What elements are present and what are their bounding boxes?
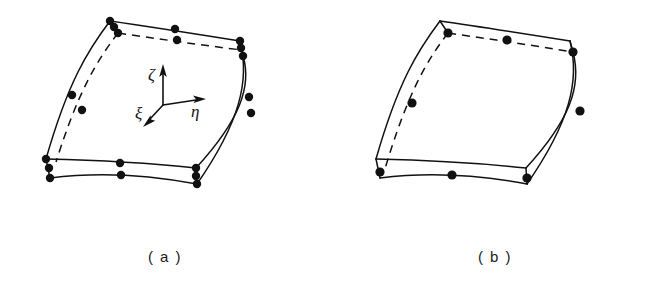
element-node-corner xyxy=(114,29,122,37)
hexahedron-element-a: ζ η ξ xyxy=(0,0,330,245)
element-node-corner xyxy=(239,52,247,60)
element-node-midside xyxy=(443,28,452,37)
node-group-a xyxy=(42,17,255,188)
element-node-midside xyxy=(447,170,456,179)
top-left-edge-b xyxy=(376,21,440,159)
element-node-midside xyxy=(173,36,181,44)
zeta-axis-label: ζ xyxy=(148,65,156,84)
element-node-midside xyxy=(237,44,245,52)
element-node-corner xyxy=(46,174,54,182)
element-node-corner xyxy=(192,164,200,172)
xi-axis-line xyxy=(150,105,163,119)
element-node-midside xyxy=(245,93,253,101)
element-node-midside xyxy=(116,159,124,167)
element-node-midside xyxy=(522,173,531,182)
element-node-midside xyxy=(78,106,86,114)
element-node-midside xyxy=(192,172,200,180)
xi-axis-label: ξ xyxy=(135,104,143,123)
figure-sheet: ζ η ξ ( a ) ( b ) xyxy=(0,0,660,295)
element-node-midside xyxy=(247,109,255,117)
bottom-top-edge-b xyxy=(376,159,526,168)
element-node-midside xyxy=(568,47,577,56)
element-node-midside xyxy=(171,25,179,33)
element-node-midside xyxy=(407,98,416,107)
element-node-midside xyxy=(575,106,584,115)
right-back-edge-b xyxy=(526,52,576,168)
right-back-edge-a xyxy=(196,56,246,168)
element-node-midside xyxy=(45,164,53,172)
xi-axis-arrowhead xyxy=(143,115,155,127)
eta-axis-label: η xyxy=(191,102,199,121)
element-node-corner xyxy=(42,155,50,163)
hidden-left-back-edge-a xyxy=(56,33,118,162)
caption-a: ( a ) xyxy=(0,248,330,265)
top-left-edge-a xyxy=(46,21,110,159)
element-node-midside xyxy=(502,35,511,44)
element-node-midside xyxy=(68,91,76,99)
element-node-midside xyxy=(117,171,125,179)
local-axes-a: ζ η ξ xyxy=(135,64,206,127)
hexahedron-element-b xyxy=(330,0,660,245)
element-node-corner xyxy=(193,180,201,188)
element-node-midside xyxy=(375,167,384,176)
caption-b: ( b ) xyxy=(330,248,660,265)
